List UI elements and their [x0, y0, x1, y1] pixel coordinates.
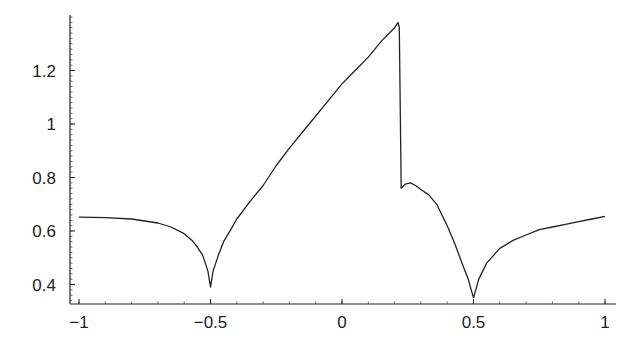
y-axis: 0.40.60.811.2: [32, 15, 75, 304]
line-chart: 0.40.60.811.2 −1−0.500.51: [0, 0, 644, 349]
y-tick-label: 0.8: [32, 169, 56, 188]
x-tick-label: 1: [600, 313, 609, 332]
series-line: [79, 22, 605, 298]
y-tick-label: 0.4: [32, 276, 56, 295]
plot-area: [79, 22, 605, 298]
y-tick-label: 1.2: [32, 62, 56, 81]
x-tick-label: 0: [337, 313, 346, 332]
x-tick-label: −1: [69, 313, 88, 332]
y-tick-label: 1: [47, 115, 56, 134]
x-axis: −1−0.500.51: [69, 299, 616, 332]
x-tick-label: −0.5: [194, 313, 228, 332]
x-tick-label: 0.5: [462, 313, 486, 332]
y-tick-label: 0.6: [32, 222, 56, 241]
